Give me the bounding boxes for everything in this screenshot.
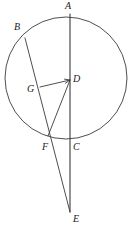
segment-b-to-e	[25, 38, 70, 212]
segment-d-to-f	[48, 80, 70, 136]
geometry-canvas	[0, 0, 133, 233]
point-label-e: E	[73, 214, 79, 224]
point-label-d: D	[73, 74, 80, 84]
point-label-a: A	[65, 1, 71, 11]
segments-group	[25, 14, 70, 212]
geometry-figure: ABDGFCE	[0, 0, 133, 233]
point-label-c: C	[73, 142, 80, 152]
point-label-f: F	[42, 142, 48, 152]
main-circle	[5, 17, 127, 139]
point-label-g: G	[27, 84, 34, 94]
point-label-b: B	[14, 22, 20, 32]
